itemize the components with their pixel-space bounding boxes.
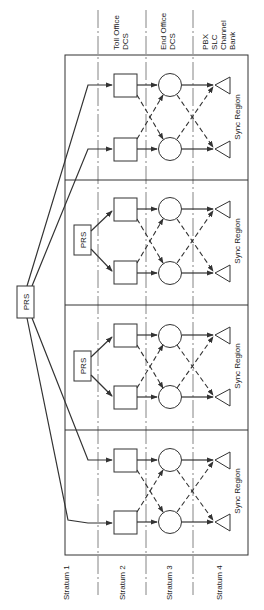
header-toll-office-line1: Toll Office xyxy=(112,14,121,50)
end-office-dcs-node xyxy=(159,138,182,161)
end-office-dcs-node xyxy=(159,511,182,534)
sync-network-diagram: PRS Sync Region PRS xyxy=(0,0,264,610)
toll-office-dcs-node xyxy=(114,386,137,409)
main-prs-feeds xyxy=(27,85,112,523)
stratum-1-label: Stratum 1 xyxy=(62,565,71,600)
sync-region-label: Sync Region xyxy=(233,468,242,513)
pbx-slc-channel-bank-node xyxy=(215,201,230,218)
end-office-dcs-node xyxy=(159,449,182,472)
header-end-office-line2: DCS xyxy=(168,33,177,50)
column-headers: Toll Office DCS End Office DCS PBX SLC C… xyxy=(112,12,237,50)
end-office-dcs-node xyxy=(159,74,182,97)
pbx-slc-channel-bank-node xyxy=(215,77,230,94)
pbx-slc-channel-bank-node xyxy=(215,389,230,406)
end-office-dcs-node xyxy=(159,198,182,221)
sync-region-4: Sync Region xyxy=(114,449,242,535)
strata-labels: Stratum 1 Stratum 2 Stratum 3 Stratum 4 xyxy=(62,565,224,600)
header-channel: Channel xyxy=(219,20,228,50)
pbx-slc-channel-bank-node xyxy=(215,452,230,469)
main-prs-node: PRS xyxy=(17,286,34,318)
local-prs-label: PRS xyxy=(79,232,88,248)
sync-region-3: PRS Sync Region xyxy=(74,324,242,409)
end-office-dcs-node xyxy=(159,325,182,348)
header-end-office-line1: End Office xyxy=(159,12,168,50)
pbx-slc-channel-bank-node xyxy=(215,141,230,158)
toll-office-dcs-node xyxy=(114,138,137,161)
header-slc: SLC xyxy=(210,34,219,50)
stratum-4-label: Stratum 4 xyxy=(215,565,224,600)
end-office-dcs-node xyxy=(159,386,182,409)
sync-region-label: Sync Region xyxy=(233,343,242,388)
toll-office-dcs-node xyxy=(114,449,137,472)
toll-office-dcs-node xyxy=(114,324,137,347)
sync-region-2: PRS Sync Region xyxy=(74,198,242,285)
pbx-slc-channel-bank-node xyxy=(215,265,230,282)
sync-region-label: Sync Region xyxy=(233,218,242,263)
pbx-slc-channel-bank-node xyxy=(215,327,230,344)
end-office-dcs-node xyxy=(159,262,182,285)
stratum-2-label: Stratum 2 xyxy=(118,565,127,600)
pbx-slc-channel-bank-node xyxy=(215,514,230,531)
stratum-3-label: Stratum 3 xyxy=(165,565,174,600)
toll-office-dcs-node xyxy=(114,198,137,221)
toll-office-dcs-node xyxy=(114,74,137,97)
toll-office-dcs-node xyxy=(114,261,137,284)
header-bank: Bank xyxy=(228,31,237,50)
local-prs-label: PRS xyxy=(79,358,88,374)
main-prs-label: PRS xyxy=(22,294,31,310)
sync-region-1: Sync Region xyxy=(114,74,242,162)
sync-region-label: Sync Region xyxy=(233,94,242,139)
region-dividers xyxy=(65,180,248,430)
header-pbx: PBX xyxy=(201,33,210,50)
toll-office-dcs-node xyxy=(114,511,137,534)
header-toll-office-line2: DCS xyxy=(121,33,130,50)
